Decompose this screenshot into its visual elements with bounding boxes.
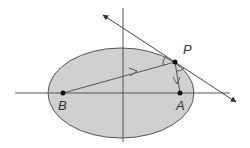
- point-p: [173, 60, 178, 65]
- point-b: [61, 91, 66, 96]
- label-p: P: [183, 42, 192, 57]
- label-b: B: [58, 98, 67, 113]
- label-a: A: [175, 98, 185, 113]
- point-a: [178, 91, 183, 96]
- ellipse-reflection-diagram: P A B: [0, 0, 250, 148]
- diagram-canvas: P A B: [0, 0, 250, 148]
